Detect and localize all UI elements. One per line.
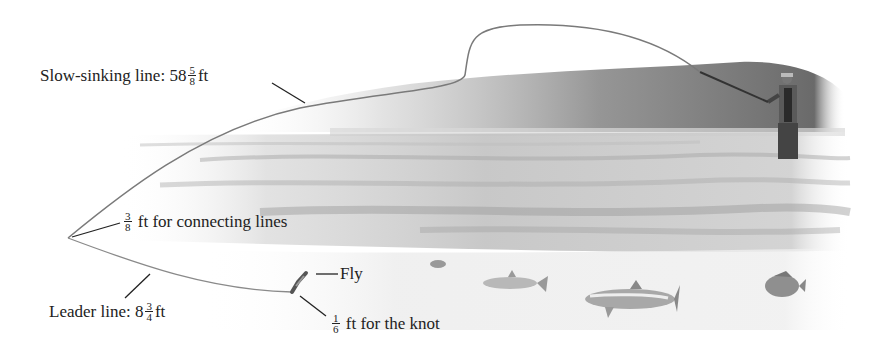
fraction: 34	[145, 301, 153, 322]
fraction: 58	[188, 65, 196, 86]
connecting-lines-label: 38 ft for connecting lines	[122, 212, 287, 234]
unit: ft	[198, 66, 208, 85]
fly-label: Fly	[340, 264, 363, 284]
fraction: 16	[332, 313, 340, 334]
river	[120, 132, 850, 252]
pointer-connecting	[72, 223, 120, 237]
fishing-diagram: Slow-sinking line: 5858ft 38 ft for conn…	[0, 0, 879, 354]
leader-line-label: Leader line: 834ft	[49, 302, 165, 324]
label-text: Fly	[340, 264, 363, 283]
pointer-leader	[125, 274, 150, 298]
pointer-slow-sinking	[272, 83, 305, 103]
tree-line	[230, 62, 845, 136]
fraction-numerator: 1	[332, 313, 340, 324]
label-text: Slow-sinking line: 58	[40, 66, 186, 85]
knot-label: 16 ft for the knot	[330, 314, 440, 336]
label-text: Leader line: 8	[49, 302, 143, 321]
fraction: 38	[124, 211, 132, 232]
fraction-denominator: 8	[188, 76, 196, 86]
unit: ft	[155, 302, 165, 321]
fraction-numerator: 3	[124, 211, 132, 222]
label-text: ft for the knot	[346, 314, 440, 333]
fraction-numerator: 3	[145, 301, 153, 312]
fraction-denominator: 8	[124, 222, 132, 232]
scene-illustration	[0, 0, 879, 354]
fraction-denominator: 6	[332, 324, 340, 334]
slow-sinking-line-label: Slow-sinking line: 5858ft	[40, 66, 208, 88]
fraction-numerator: 5	[188, 65, 196, 76]
label-text: ft for connecting lines	[138, 212, 288, 231]
fraction-denominator: 4	[145, 312, 153, 322]
underwater	[200, 248, 850, 330]
